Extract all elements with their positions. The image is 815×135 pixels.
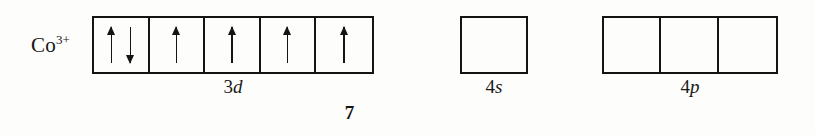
ionic-charge: 3+ (56, 32, 70, 47)
orbital-group-4p: 4p (602, 16, 778, 74)
orbital-box (261, 18, 317, 72)
subshell-label-4s: 4s (460, 76, 528, 98)
orbital-box (150, 18, 206, 72)
element-symbol: Co (31, 33, 56, 57)
electron-single (339, 18, 350, 72)
orbital-box (462, 18, 526, 72)
orbital-box (94, 18, 150, 72)
subshell-label-3d: 3d (92, 76, 374, 98)
orbital-diagram-figure: Co3+ (0, 0, 815, 135)
orbital-box-row-4s (460, 16, 528, 74)
orbital-box (604, 18, 661, 72)
arrow-up-icon (171, 27, 182, 63)
principal-quantum-number: 3 (224, 76, 234, 97)
orbital-box (205, 18, 261, 72)
orbital-box (316, 18, 372, 72)
electron-single (282, 18, 293, 72)
electron-single (171, 18, 182, 72)
subshell-letter: p (690, 76, 700, 97)
arrow-up-icon (227, 27, 238, 63)
orbital-group-4s: 4s (460, 16, 528, 74)
subshell-letter: s (495, 76, 502, 97)
orbital-box-row-4p (602, 16, 778, 74)
electron-pair (106, 18, 136, 72)
page-number: 7 (0, 102, 757, 124)
orbital-box (719, 18, 776, 72)
orbital-group-3d: 3d (92, 16, 374, 74)
subshell-label-4p: 4p (602, 76, 778, 98)
orbital-box (661, 18, 718, 72)
orbital-box-row-3d (92, 16, 374, 74)
arrow-down-icon (125, 27, 136, 63)
principal-quantum-number: 4 (681, 76, 691, 97)
principal-quantum-number: 4 (486, 76, 496, 97)
species-label: Co3+ (31, 32, 70, 58)
arrow-up-icon (282, 27, 293, 63)
arrow-up-icon (339, 27, 350, 63)
subshell-letter: d (233, 76, 243, 97)
arrow-up-icon (106, 27, 117, 63)
electron-single (227, 18, 238, 72)
